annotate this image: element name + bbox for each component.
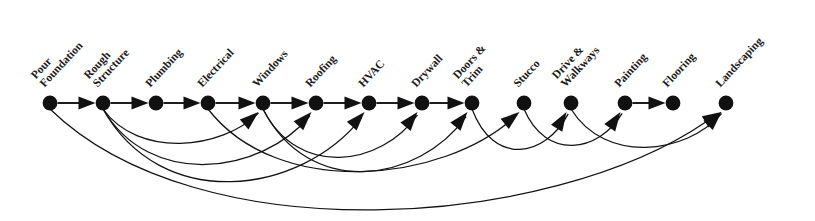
arrowhead-drywall-to-doors-trim [448, 97, 465, 110]
arrowhead-hvac-to-drywall [398, 97, 415, 110]
arrowhead-windows-to-drywall [400, 112, 417, 131]
arrowhead-rough-structure-to-plumbing [132, 97, 149, 110]
node-rough-structure[interactable] [96, 96, 111, 111]
arc-edge-windows-to-drywall [263, 109, 418, 157]
node-pour-foundation[interactable] [43, 96, 58, 111]
arrowhead-windows-to-roofing [292, 97, 309, 110]
node-stucco[interactable] [517, 96, 532, 111]
arrowhead-rough-structure-to-windows [240, 112, 259, 129]
arc-edge-drive-walkways-to-landscaping [571, 109, 722, 147]
node-plumbing[interactable] [149, 96, 164, 111]
arc-edge-rough-structure-to-roofing [103, 109, 310, 165]
arrowhead-rough-structure-to-roofing [294, 112, 312, 130]
node-flooring[interactable] [666, 96, 681, 111]
arrowhead-rough-structure-to-hvac [347, 112, 365, 131]
node-electrical[interactable] [201, 96, 216, 111]
arrowhead-painting-to-flooring [649, 97, 666, 110]
node-windows[interactable] [256, 96, 271, 111]
arrowhead-pour-foundation-to-rough-structure [79, 97, 96, 110]
dependency-diagram: PourFoundationRoughStructurePlumbingElec… [0, 0, 815, 221]
curved-edge-group [50, 109, 722, 210]
node-doors-trim[interactable] [465, 96, 480, 111]
arc-edge-windows-to-doors-trim [263, 109, 466, 172]
arrowhead-plumbing-to-electrical [184, 97, 201, 110]
node-drywall[interactable] [415, 96, 430, 111]
arrowhead-roofing-to-hvac [345, 97, 362, 110]
arrowhead-windows-to-doors-trim [450, 112, 467, 131]
arc-edge-doors-trim-to-drive-walkways [472, 109, 568, 149]
node-landscaping[interactable] [719, 96, 734, 111]
node-roofing[interactable] [309, 96, 324, 111]
arc-edge-rough-structure-to-hvac [103, 109, 361, 182]
arrowhead-stucco-to-painting [604, 112, 620, 131]
graph-canvas [0, 0, 815, 221]
arrowhead-electrical-to-windows [239, 97, 256, 110]
node-painting[interactable] [618, 96, 633, 111]
node-hvac[interactable] [362, 96, 377, 111]
arrowhead-doors-trim-to-drive-walkways [551, 112, 566, 132]
node-drive-walkways[interactable] [564, 96, 579, 111]
